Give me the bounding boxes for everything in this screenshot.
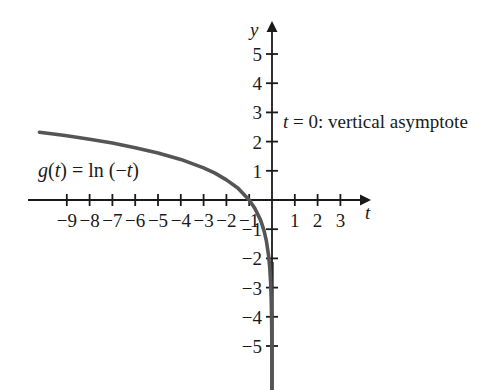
function-label-close-paren: ) xyxy=(60,159,67,181)
x-tick-label: 3 xyxy=(326,211,354,230)
y-tick-label: 5 xyxy=(236,45,262,64)
y-tick-label: −5 xyxy=(236,337,262,356)
y-axis-arrowhead xyxy=(267,21,278,32)
function-label-g: g xyxy=(38,159,48,181)
function-label-equals-ln: = ln (− xyxy=(67,159,127,181)
y-tick-label: −4 xyxy=(236,308,262,327)
asymptote-annotation: t = 0: vertical asymptote xyxy=(283,112,468,131)
graph-figure: −9−8−7−6−5−4−3−2−1123 54321−1−2−3−4−5 y … xyxy=(0,0,500,390)
y-tick-label: 4 xyxy=(236,74,262,93)
function-label-close-paren-2: ) xyxy=(132,159,139,181)
x-axis xyxy=(28,194,371,206)
y-tick-label: 1 xyxy=(236,162,262,181)
function-label: g(t) = ln (−t) xyxy=(38,160,139,180)
y-tick-label: 2 xyxy=(236,133,262,152)
y-tick-label: −3 xyxy=(236,279,262,298)
y-tick-label: −1 xyxy=(236,220,262,239)
function-label-open-paren: ( xyxy=(48,159,55,181)
x-axis-name: t xyxy=(365,203,370,222)
y-axis-name: y xyxy=(250,20,258,39)
asymptote-annotation-text: = 0: vertical asymptote xyxy=(288,111,468,132)
y-tick-label: −2 xyxy=(236,249,262,268)
y-tick-label: 3 xyxy=(236,103,262,122)
